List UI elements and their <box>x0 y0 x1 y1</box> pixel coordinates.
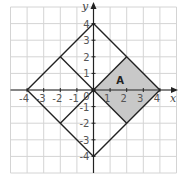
x-tick-label: -4 <box>19 93 29 104</box>
y-tick-label: 1 <box>83 68 89 79</box>
y-tick-label: -1 <box>80 102 90 113</box>
y-tick-label: -3 <box>80 135 90 146</box>
x-tick-label: 2 <box>121 93 127 104</box>
region-label-a: A <box>116 75 124 86</box>
x-tick-label: 1 <box>104 93 110 104</box>
y-tick-label: 3 <box>83 35 89 46</box>
x-tick-label: -3 <box>36 93 46 104</box>
y-axis-label: y <box>81 0 89 13</box>
origin-point <box>91 88 95 92</box>
y-tick-label: -4 <box>80 151 90 162</box>
x-tick-label: -2 <box>52 93 62 104</box>
y-tick-label: 2 <box>83 52 89 63</box>
y-tick-label: -2 <box>80 118 90 129</box>
x-axis-label: x <box>170 92 177 105</box>
y-axis-arrow-icon <box>91 2 97 9</box>
x-tick-label: 3 <box>137 93 143 104</box>
coordinate-diagram: -4-3-2-112344321-1-2-3-40 A x y <box>0 0 180 175</box>
origin-label: 0 <box>83 91 89 102</box>
y-tick-label: 4 <box>83 19 89 30</box>
x-tick-label: -1 <box>69 93 79 104</box>
x-tick-label: 4 <box>154 93 160 104</box>
